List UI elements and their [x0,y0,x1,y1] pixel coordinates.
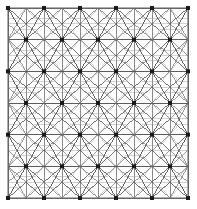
mesh-node-marker [78,6,82,10]
mesh-node-marker [186,133,190,137]
mesh-node-marker [168,164,172,168]
mesh-node-marker [42,133,46,137]
mesh-node-marker [186,69,190,73]
mesh-node-marker [6,196,10,200]
mesh-node-marker [6,133,10,137]
mesh-node-marker [42,6,46,10]
mesh-node-marker [132,101,136,105]
mesh-node-marker [132,164,136,168]
mesh-node-marker [78,133,82,137]
mesh-node-marker [132,38,136,42]
mesh-node-marker [60,101,64,105]
mesh-node-marker [6,69,10,73]
mesh-node-marker [78,69,82,73]
mesh-node-marker [24,164,28,168]
mesh-node-marker [60,38,64,42]
mesh-node-marker [42,69,46,73]
mesh-node-marker [114,69,118,73]
mesh-diagram-svg [0,0,197,209]
mesh-node-marker [96,38,100,42]
mesh-node-marker [24,101,28,105]
mesh-node-marker [24,38,28,42]
mesh-node-marker [150,6,154,10]
mesh-node-marker [42,196,46,200]
mesh-node-marker [78,196,82,200]
mesh-node-marker [150,133,154,137]
mesh-node-marker [186,6,190,10]
mesh-node-marker [96,101,100,105]
mesh-figure-page [0,0,197,209]
mesh-node-marker [150,69,154,73]
mesh-node-marker [186,196,190,200]
mesh-node-marker [168,38,172,42]
mesh-node-marker [168,101,172,105]
mesh-node-marker [150,196,154,200]
mesh-node-marker [60,164,64,168]
mesh-node-marker [114,6,118,10]
mesh-node-marker [114,196,118,200]
mesh-node-marker [114,133,118,137]
mesh-node-marker [96,164,100,168]
mesh-node-marker [6,6,10,10]
